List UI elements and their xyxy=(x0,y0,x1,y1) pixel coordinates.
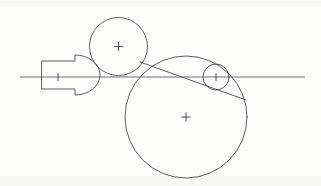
paper-background xyxy=(0,0,321,186)
technical-drawing-svg xyxy=(0,0,321,186)
paper-grain-top xyxy=(0,0,321,7)
drawing-canvas xyxy=(0,0,321,186)
paper-grain-bottom xyxy=(0,176,321,186)
